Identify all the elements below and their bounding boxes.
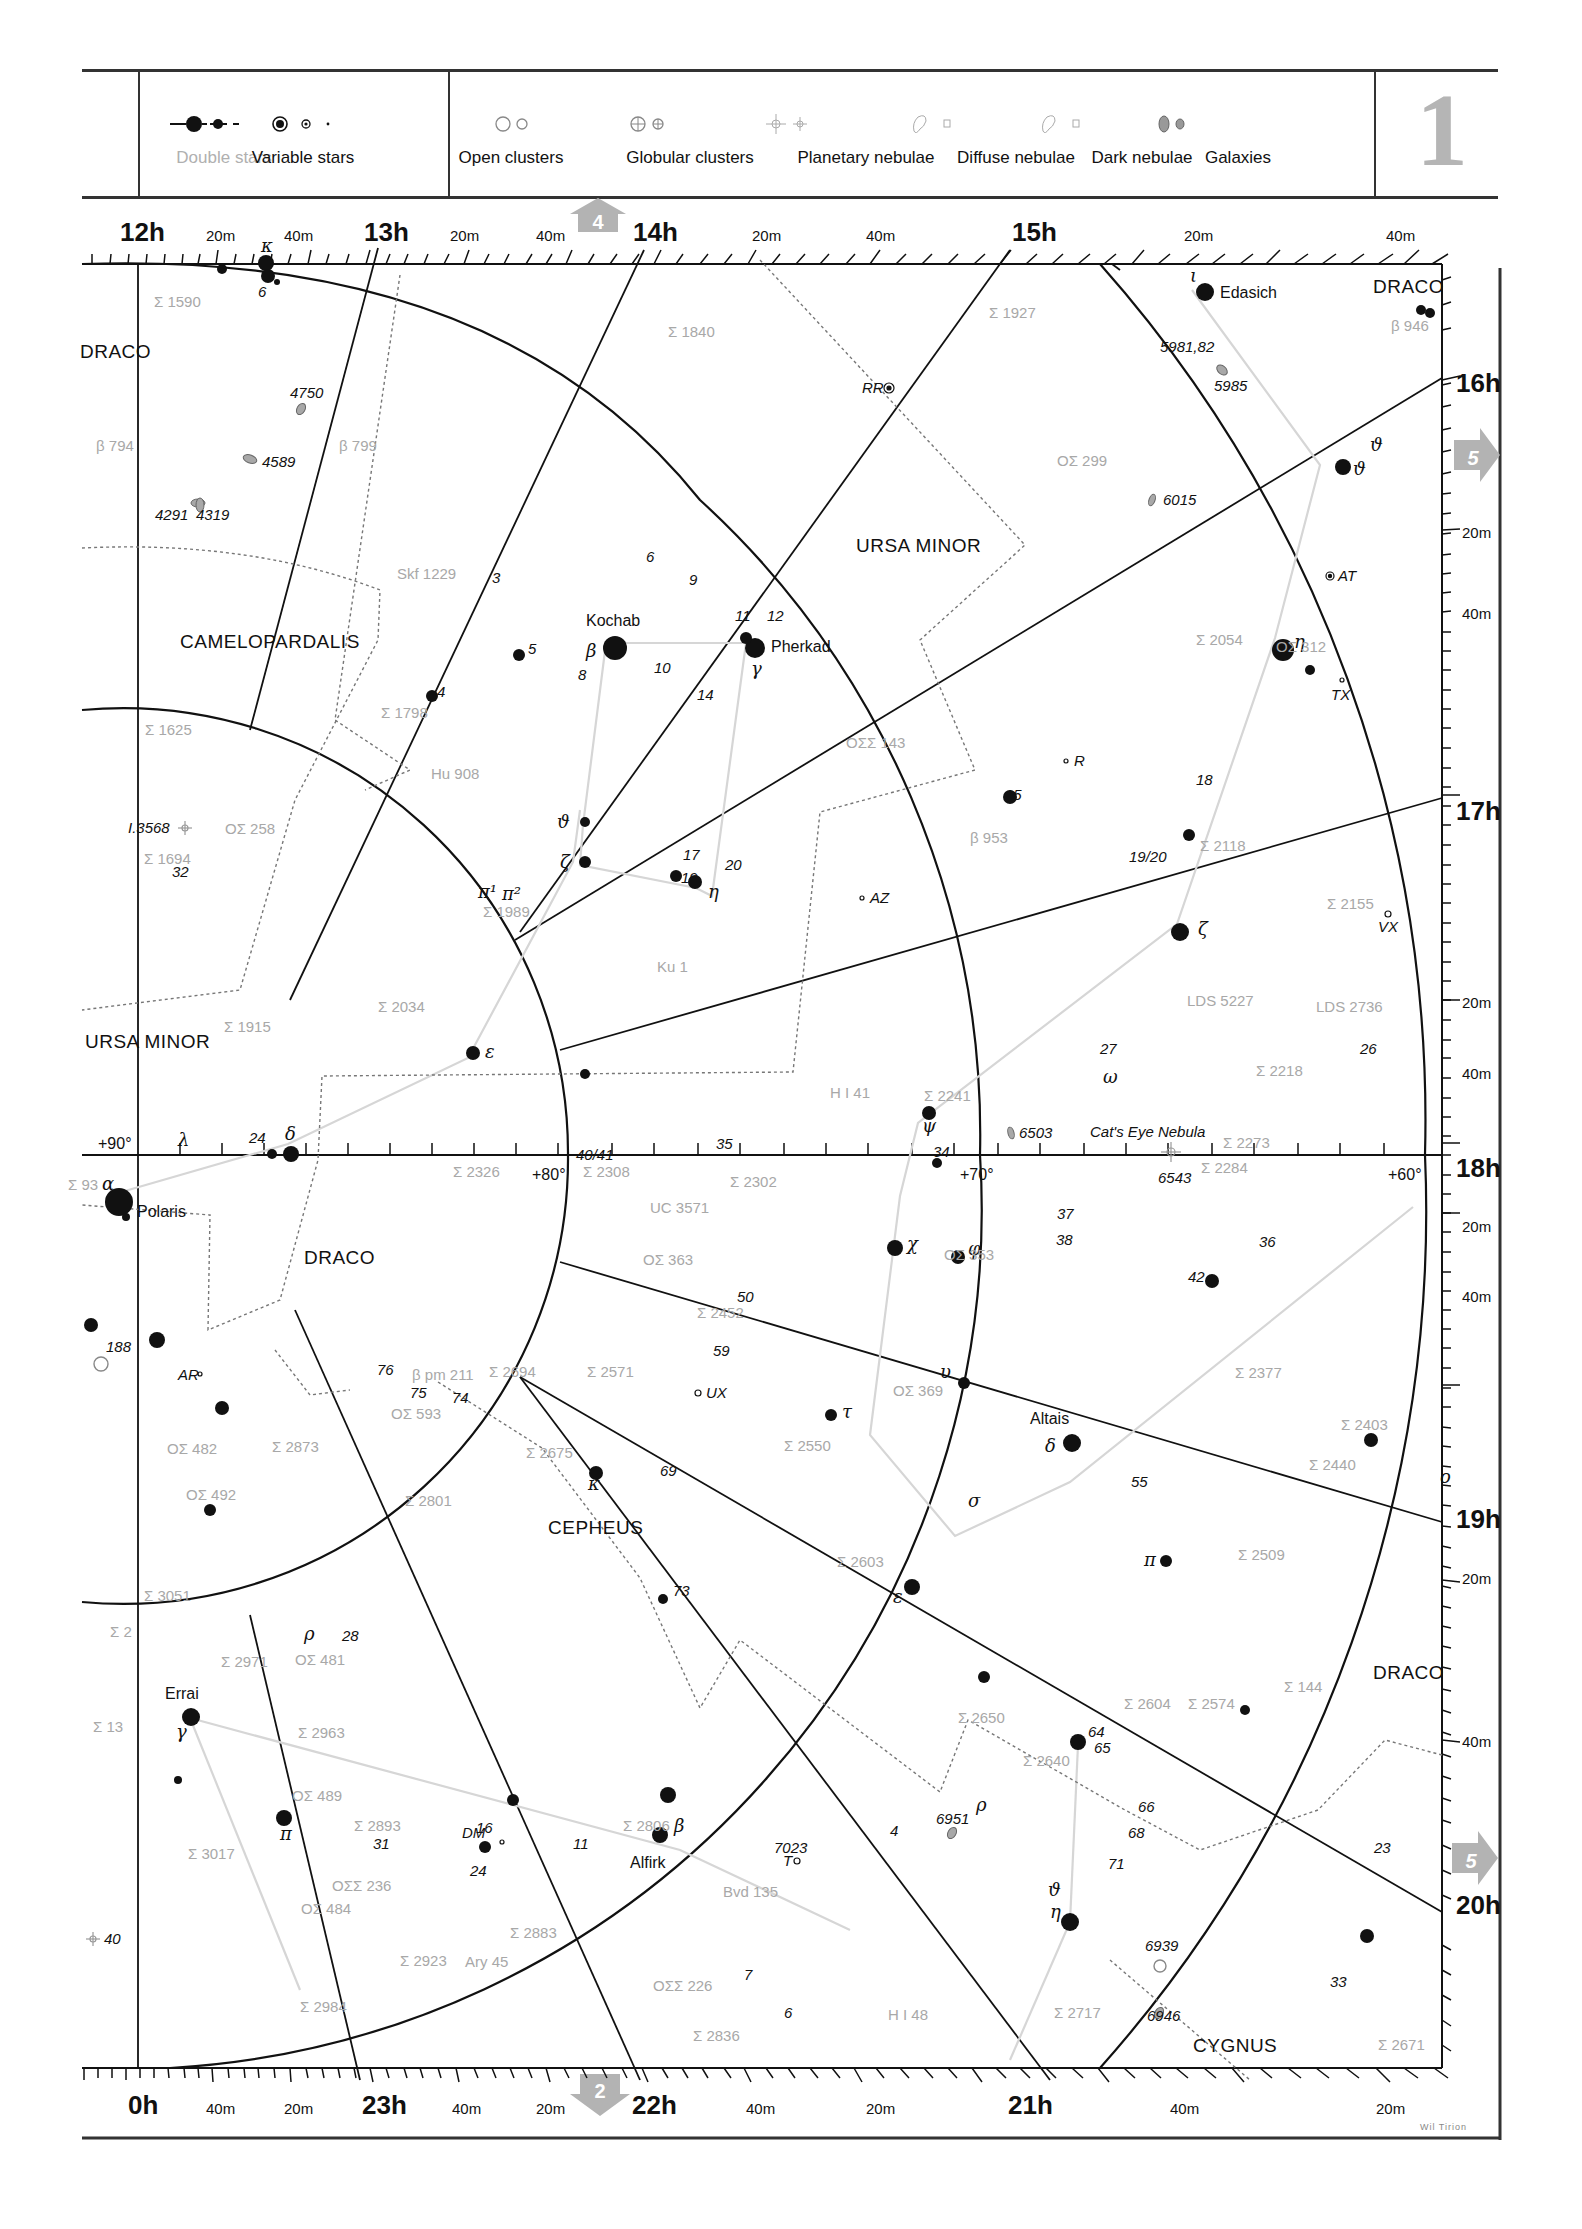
star-label-edasich: Edasich — [1220, 284, 1277, 301]
svg-text:3: 3 — [492, 569, 501, 586]
svg-text:40/41: 40/41 — [576, 1146, 614, 1163]
galaxy-label: 6951 — [936, 1810, 969, 1827]
svg-text:ϑ: ϑ — [1048, 1879, 1061, 1900]
svg-text:10: 10 — [654, 659, 671, 676]
svg-text:2: 2 — [594, 2080, 605, 2102]
double-star-label: ΟΣΣ 226 — [653, 1977, 712, 1994]
double-star-labels: Σ 1590 β 794 β 799 Skf 1229 Σ 1840 Σ 192… — [68, 293, 1429, 2053]
double-star-label: Σ 2326 — [453, 1163, 500, 1180]
svg-text:λ: λ — [177, 1129, 189, 1150]
svg-text:17: 17 — [683, 846, 700, 863]
svg-text:ϑ: ϑ — [1353, 458, 1366, 479]
double-star-label: β 794 — [96, 437, 134, 454]
ra-label: 40m — [536, 227, 565, 244]
double-star-label: Σ 2883 — [510, 1924, 557, 1941]
variable-label: R — [1074, 752, 1085, 769]
greek-letter-labels: κι βγ ϑη ϑζ ηζ εδ λα ψω χφ υτ κδ σπ ερ ρ… — [102, 235, 1451, 1922]
svg-text:τ: τ — [842, 1401, 853, 1422]
ra-label: 20m — [1462, 1570, 1491, 1587]
svg-text:5: 5 — [528, 640, 537, 657]
double-star-label: Σ 1590 — [154, 293, 201, 310]
double-star-label: Σ 2806 — [623, 1817, 670, 1834]
double-star-label: Σ 2273 — [1223, 1134, 1270, 1151]
ra-label: 40m — [746, 2100, 775, 2117]
svg-text:β: β — [585, 640, 596, 661]
galaxy-label: 5981,82 — [1160, 338, 1215, 355]
nebula-label: 40 — [104, 1930, 121, 1947]
double-star-label: Σ 2675 — [526, 1444, 573, 1461]
svg-text:65: 65 — [1094, 1739, 1111, 1756]
svg-text:18: 18 — [1196, 771, 1213, 788]
galaxy-label: 4750 — [290, 384, 324, 401]
svg-text:23: 23 — [1373, 1839, 1391, 1856]
right-ra-labels: 16h 20m 40m 17h 20m 40m 18h 20m 40m 19h … — [1456, 368, 1501, 1920]
svg-text:37: 37 — [1057, 1205, 1074, 1222]
arrow-to-chart-2[interactable]: 2 — [570, 2074, 630, 2116]
svg-text:33: 33 — [1330, 1973, 1347, 1990]
svg-text:74: 74 — [452, 1389, 469, 1406]
double-star-label: β 946 — [1391, 317, 1429, 334]
double-star-label: Bvd 135 — [723, 1883, 778, 1900]
constellation-label: CAMELOPARDALIS — [180, 631, 360, 652]
cats-eye-nebula-label: Cat's Eye Nebula — [1090, 1123, 1205, 1140]
double-star-label: LDS 5227 — [1187, 992, 1254, 1009]
double-star-label: ΟΣ 353 — [944, 1246, 994, 1263]
double-star-label: ΟΣ 489 — [292, 1787, 342, 1804]
dec-label-70: +70° — [960, 1166, 994, 1183]
double-star-label: Σ 2984 — [300, 1998, 347, 2015]
arrow-to-chart-5-upper[interactable]: 5 — [1454, 428, 1500, 482]
svg-text:6: 6 — [258, 283, 267, 300]
ra-label: 18h — [1456, 1153, 1501, 1183]
double-star-label: Σ 2054 — [1196, 631, 1243, 648]
ra-label: 20m — [866, 2100, 895, 2117]
svg-text:4: 4 — [890, 1822, 898, 1839]
double-star-label: ΟΣ 593 — [391, 1405, 441, 1422]
arrow-to-chart-4[interactable]: 4 — [570, 198, 626, 233]
ra-label: 15h — [1012, 217, 1057, 247]
planetary-nebulae — [86, 821, 1181, 1946]
galaxy-label: 6946 — [1147, 2007, 1181, 2024]
variable-label: VX — [1378, 918, 1399, 935]
ra-label: 20m — [1462, 524, 1491, 541]
svg-text:11: 11 — [735, 607, 751, 624]
svg-text:64: 64 — [1088, 1723, 1105, 1740]
svg-text:20: 20 — [724, 856, 742, 873]
double-star-label: ΟΣ 481 — [295, 1651, 345, 1668]
double-star-label: H I 41 — [830, 1084, 870, 1101]
double-star-label: Σ 2403 — [1341, 1416, 1388, 1433]
svg-text:31: 31 — [373, 1835, 390, 1852]
svg-text:π: π — [1143, 1549, 1157, 1570]
ra-label: 20m — [752, 227, 781, 244]
svg-text:ε: ε — [485, 1041, 495, 1062]
bottom-ra-labels: 0h 40m 20m 23h 40m 20m 22h 40m 20m 21h 4… — [128, 2090, 1405, 2120]
ra-label: 20m — [1184, 227, 1213, 244]
svg-text:κ: κ — [260, 235, 273, 256]
cluster-label: 6939 — [1145, 1937, 1179, 1954]
constellation-label: URSA MINOR — [856, 535, 981, 556]
constellation-label: CYGNUS — [1193, 2035, 1277, 2056]
double-star-label: ΟΣ 482 — [167, 1440, 217, 1457]
double-star-label: Σ 2671 — [1378, 2036, 1425, 2053]
constellation-label: DRACO — [80, 341, 151, 362]
svg-text:χ: χ — [905, 1233, 919, 1254]
svg-text:η: η — [1050, 1901, 1061, 1922]
svg-text:ϑ: ϑ — [1370, 434, 1383, 455]
ra-label: 40m — [1386, 227, 1415, 244]
double-star-label: Skf 1229 — [397, 565, 456, 582]
svg-text:71: 71 — [1108, 1855, 1125, 1872]
ra-label: 23h — [362, 2090, 407, 2120]
double-star-label: β 953 — [970, 829, 1008, 846]
double-star-label: ΟΣ 312 — [1276, 638, 1326, 655]
ra-label: 16h — [1456, 368, 1501, 398]
double-star-label: β 799 — [339, 437, 377, 454]
svg-text:42: 42 — [1188, 1268, 1205, 1285]
double-star-label: ΟΣ 492 — [186, 1486, 236, 1503]
svg-text:δ: δ — [285, 1123, 296, 1144]
galaxy-label: 6015 — [1163, 491, 1197, 508]
double-star-label: Σ 1989 — [483, 903, 530, 920]
arrow-to-chart-5-lower[interactable]: 5 — [1452, 1831, 1498, 1885]
dec-label-80: +80° — [532, 1166, 566, 1183]
double-star-label: ΟΣ 484 — [301, 1900, 351, 1917]
svg-text:55: 55 — [1131, 1473, 1148, 1490]
svg-text:26: 26 — [1359, 1040, 1377, 1057]
